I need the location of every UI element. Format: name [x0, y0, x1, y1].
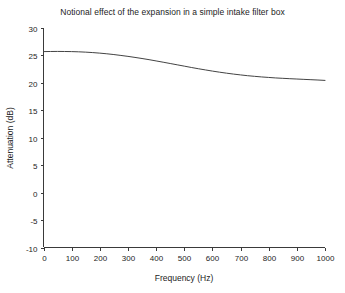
x-tick-label: 800: [263, 254, 277, 263]
x-tick-label: 100: [66, 254, 80, 263]
y-tick-label: 5: [33, 162, 38, 171]
y-axis-title: Attenuation (dB): [5, 107, 15, 169]
y-tick-label: -10: [26, 245, 38, 254]
x-tick-label: 200: [94, 254, 108, 263]
x-tick-label: 300: [122, 254, 136, 263]
plot-area: -10-5051015202530 0100200300400500600700…: [0, 0, 345, 293]
y-tick-label: 30: [29, 25, 38, 34]
x-tick-label: 1000: [317, 254, 335, 263]
chart-figure: Notional effect of the expansion in a si…: [0, 0, 345, 293]
attenuation-curve: [44, 51, 326, 80]
x-tick-label: 0: [42, 254, 47, 263]
x-tick-label: 400: [150, 254, 164, 263]
x-tick-label: 700: [235, 254, 249, 263]
x-axis-title: Frequency (Hz): [155, 273, 214, 283]
x-axis-ticks: 01002003004005006007008009001000: [42, 248, 335, 263]
y-tick-label: 25: [29, 52, 38, 61]
y-tick-label: 15: [29, 107, 38, 116]
x-tick-label: 500: [178, 254, 192, 263]
x-tick-label: 900: [291, 254, 305, 263]
y-tick-label: 20: [29, 80, 38, 89]
y-tick-label: -5: [30, 217, 38, 226]
x-tick-label: 600: [206, 254, 220, 263]
y-tick-label: 0: [33, 190, 38, 199]
y-tick-label: 10: [29, 135, 38, 144]
y-axis-ticks: -10-5051015202530: [26, 25, 44, 254]
